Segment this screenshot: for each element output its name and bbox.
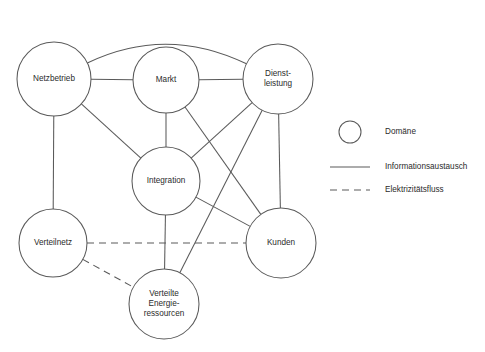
edge-integration-to-verteilte_energieressourcen <box>165 215 166 269</box>
edge-markt-to-kunden <box>185 107 261 214</box>
edge-verteilnetz-to-verteilte_energieressourcen <box>83 259 134 287</box>
node-label-integration: Integration <box>147 176 186 185</box>
nodes-layer: NetzbetriebMarktDienst-leistungIntegrati… <box>17 42 316 339</box>
node-label-kunden: Kunden <box>267 238 296 247</box>
edge-dienstleistung-to-integration <box>191 103 252 159</box>
legend-item-informationsaustausch: Informationsaustausch <box>330 162 468 171</box>
node-kunden[interactable]: Kunden <box>246 208 316 278</box>
node-label-verteilte_energieressourcen: Energie- <box>149 299 180 308</box>
legend-item-elektrizitaetsfluss: Elektrizitätsfluss <box>330 185 444 194</box>
node-label-markt: Markt <box>156 75 177 84</box>
node-dienstleistung[interactable]: Dienst-leistung <box>243 44 313 114</box>
legend-label-informationsaustausch: Informationsaustausch <box>385 162 468 171</box>
legend-item-domaene: Domäne <box>339 121 416 143</box>
node-label-dienstleistung: leistung <box>264 79 293 88</box>
node-label-verteilnetz: Verteilnetz <box>34 238 72 247</box>
legend-layer: DomäneInformationsaustauschElektrizitäts… <box>330 121 468 194</box>
node-label-verteilte_energieressourcen: Verteilte <box>149 289 179 298</box>
node-verteilnetz[interactable]: Verteilnetz <box>19 209 87 277</box>
node-netzbetrieb[interactable]: Netzbetrieb <box>17 42 91 116</box>
domain-model-diagram: NetzbetriebMarktDienst-leistungIntegrati… <box>0 0 485 352</box>
node-label-netzbetrieb: Netzbetrieb <box>33 74 75 83</box>
node-verteilte_energieressourcen[interactable]: VerteilteEnergie-ressourcen <box>129 269 199 339</box>
edge-integration-to-kunden <box>196 197 250 226</box>
edge-dienstleistung-to-kunden <box>279 114 281 208</box>
node-label-dienstleistung: Dienst- <box>265 69 291 78</box>
node-markt[interactable]: Markt <box>133 47 199 113</box>
edge-netzbetrieb-to-verteilnetz <box>53 116 54 209</box>
legend-label-elektrizitaetsfluss: Elektrizitätsfluss <box>385 185 444 194</box>
diagram-root: NetzbetriebMarktDienst-leistungIntegrati… <box>0 0 485 352</box>
legend-domain-circle-icon <box>339 121 361 143</box>
edge-netzbetrieb-to-integration <box>81 104 141 158</box>
legend-label-domaene: Domäne <box>385 127 416 136</box>
node-integration[interactable]: Integration <box>132 147 200 215</box>
node-label-verteilte_energieressourcen: ressourcen <box>144 309 185 318</box>
